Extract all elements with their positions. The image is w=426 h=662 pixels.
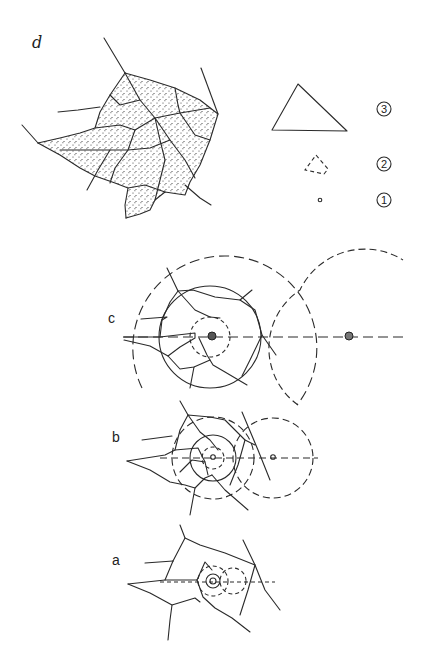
plate-network: [188, 415, 218, 450]
plate-network: [180, 460, 205, 472]
panel-label-c: c: [108, 310, 115, 326]
plate-network: [142, 436, 172, 440]
right-center-dot: [345, 332, 353, 340]
panel-c: c: [108, 249, 405, 405]
center-dot: [208, 332, 216, 340]
figure-canvas: d 3 2 1 c: [0, 0, 426, 662]
number-3: 3: [381, 103, 387, 115]
plate-network: [168, 356, 210, 369]
plate-network: [145, 561, 173, 563]
plate-network: [180, 401, 188, 415]
number-1: 1: [381, 194, 387, 206]
plate-network: [168, 605, 172, 640]
plate-network: [197, 580, 250, 632]
plate-network: [162, 290, 276, 355]
triangle-3: [272, 84, 347, 131]
triangle-1-dot: [318, 198, 322, 202]
panel-a: a: [112, 525, 280, 640]
ridge-line: [58, 107, 100, 112]
panel-label-d: d: [32, 33, 42, 52]
ridge-line: [185, 185, 211, 205]
ridge-line: [22, 125, 38, 143]
center-dot: [210, 578, 216, 584]
plate-network: [230, 440, 245, 485]
number-2: 2: [381, 158, 387, 170]
plate-network: [190, 488, 195, 515]
plate-network: [178, 291, 220, 318]
center-dot: [211, 455, 216, 460]
plate-network: [240, 290, 252, 300]
legend: 3 2 1: [272, 84, 391, 207]
plate-network: [243, 540, 280, 610]
solid-circle: [206, 574, 220, 588]
plate-network: [197, 562, 212, 580]
plate-network: [167, 268, 178, 291]
right-center-dot: [271, 455, 276, 460]
panel-label-b: b: [112, 429, 120, 445]
triangle-2: [305, 155, 328, 174]
panel-b: b: [112, 401, 318, 515]
plate-network: [242, 335, 262, 376]
plate-network: [165, 561, 173, 580]
panel-d: d: [22, 33, 218, 218]
right-dashed-circle: [220, 568, 246, 594]
ridge-line: [104, 38, 125, 73]
plate-network: [141, 317, 167, 337]
plate-network: [173, 525, 185, 561]
stippled-plate-area: [38, 73, 218, 218]
outer-dashed-circle: [198, 566, 228, 596]
plate-network: [128, 584, 200, 605]
panel-label-a: a: [112, 552, 120, 568]
right-dashed-circle: [269, 249, 403, 405]
plate-network: [127, 461, 212, 488]
